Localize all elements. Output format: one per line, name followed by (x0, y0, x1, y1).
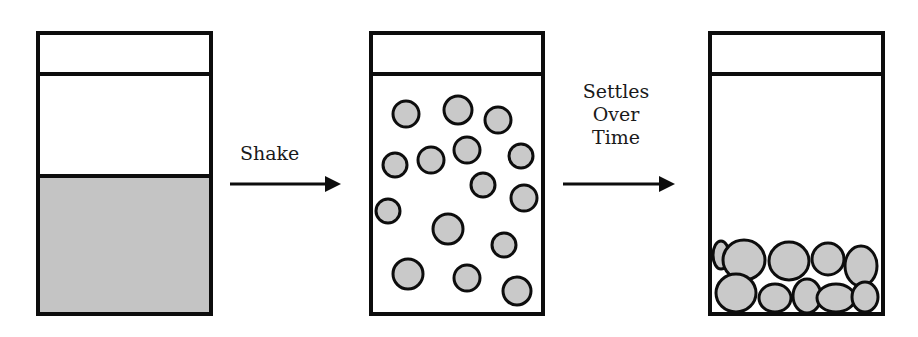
particle (393, 101, 419, 127)
label-line-time: Time (576, 126, 656, 149)
particle (503, 277, 531, 305)
settled-particle (716, 274, 756, 312)
shake-label: Shake (240, 142, 299, 165)
particle (511, 185, 537, 211)
arrow-shake (230, 176, 341, 192)
diagram-canvas (0, 0, 918, 337)
arrow-settles-over-time (563, 176, 675, 192)
sediment-layer (38, 176, 211, 314)
label-line-over: Over (576, 103, 656, 126)
container-shaken-suspension (371, 33, 543, 314)
particle (433, 214, 463, 244)
container-before-shaking (38, 33, 211, 314)
settled-particle (812, 243, 844, 275)
sedimentation-diagram: Shake Settles Over Time (0, 0, 918, 337)
settles-over-time-label: Settles Over Time (576, 80, 656, 149)
settled-particle (759, 284, 791, 312)
settled-particle (769, 242, 809, 280)
container-settled-aggregates (710, 33, 883, 314)
particle (383, 153, 407, 177)
particle (418, 147, 444, 173)
arrowhead-icon (325, 176, 341, 192)
particle (485, 107, 511, 133)
settled-particle (852, 282, 878, 312)
arrowhead-icon (659, 176, 675, 192)
particle (509, 144, 533, 168)
particle (492, 233, 516, 257)
particle (454, 137, 480, 163)
particle (471, 173, 495, 197)
settled-particle (845, 246, 877, 286)
particle (376, 199, 400, 223)
label-line-settles: Settles (576, 80, 656, 103)
particle (444, 96, 472, 124)
settled-particle (817, 284, 855, 312)
particle (454, 265, 480, 291)
particle (393, 259, 423, 289)
